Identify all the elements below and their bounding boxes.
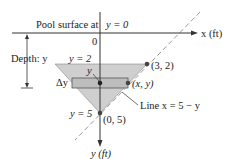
- depth-label: Depth: y: [11, 53, 48, 64]
- point-strip-center: [98, 81, 103, 86]
- point-3-2-label: (3, 2): [151, 60, 174, 72]
- surface-eq: y = 0: [105, 19, 129, 30]
- line-eq-label: Line x = 5 − y: [140, 100, 201, 111]
- point-x-y: [126, 81, 131, 86]
- point-0-5-label: (0, 5): [103, 114, 126, 126]
- y2-label: y = 2: [68, 53, 92, 64]
- y-arrow-icon: [98, 140, 103, 147]
- surface-label: Pool surface at: [36, 19, 98, 30]
- depth-arrow-down-icon: [25, 83, 29, 88]
- origin-label: 0: [92, 36, 97, 47]
- x-arrow-icon: [191, 31, 198, 36]
- point-0-5: [98, 111, 103, 116]
- line-pointer: [122, 92, 138, 105]
- depth-arrow-up-icon: [25, 34, 29, 39]
- point-3-2: [145, 62, 150, 67]
- y5-label: y = 5: [69, 108, 92, 119]
- delta-y-label: Δy: [56, 77, 69, 88]
- diagram: Pool surface at y = 0 x (ft) 0 Depth: y …: [0, 0, 231, 159]
- x-axis-label: x (ft): [201, 28, 223, 40]
- y-axis-label: y (ft): [90, 148, 112, 159]
- point-x-y-label: (x, y): [132, 78, 154, 90]
- y-strip-label: y: [86, 65, 92, 76]
